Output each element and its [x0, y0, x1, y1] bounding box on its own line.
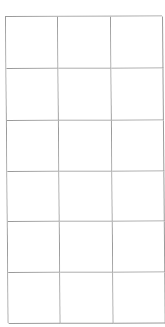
grid-cell-r1-c2 [58, 17, 111, 69]
grid-cell-r2-c2 [58, 69, 111, 121]
grid-cell-r1-c1 [6, 17, 58, 69]
grid-cell-r4-c3 [112, 172, 164, 222]
grid-cell-r3-c2 [59, 121, 112, 172]
grid-cell-r6-c2 [60, 273, 113, 324]
canvas [0, 0, 165, 327]
grid-cell-r2-c3 [111, 69, 163, 121]
grid-cell-r3-c1 [7, 121, 59, 172]
grid-cell-r6-c1 [8, 273, 60, 324]
grid-cell-r5-c2 [60, 222, 113, 273]
grid-cell-r5-c1 [8, 222, 60, 273]
grid-cell-r3-c3 [112, 121, 164, 172]
grid-cell-r2-c1 [6, 69, 58, 121]
grid-cell-r4-c1 [7, 172, 59, 222]
grid-cell-r4-c2 [59, 172, 112, 222]
grid-cell-r1-c3 [111, 17, 163, 69]
grid-cell-r6-c3 [113, 273, 165, 324]
empty-grid [5, 16, 165, 323]
grid-cell-r5-c3 [113, 222, 165, 273]
